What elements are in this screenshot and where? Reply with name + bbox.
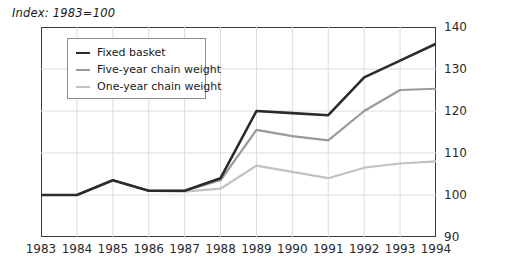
legend-line-swatch [76, 69, 90, 71]
legend-item: Five-year chain weight [68, 61, 205, 78]
legend-item-label: One-year chain weight [97, 80, 222, 93]
chart-figure: Index: 1983=100 90100110120130140 198319… [0, 0, 517, 269]
y-tick-label: 120 [444, 105, 484, 117]
legend-item: Fixed basket [68, 44, 205, 61]
legend-item: One-year chain weight [68, 78, 205, 95]
legend-line-swatch [76, 52, 90, 54]
y-tick-label: 110 [444, 147, 484, 159]
y-tick-label: 140 [444, 21, 484, 33]
legend-item-label: Five-year chain weight [97, 63, 221, 76]
chart-legend: Fixed basketFive-year chain weightOne-ye… [67, 38, 206, 99]
series-line-one-year-chain-weight [41, 161, 436, 195]
y-tick-label: 130 [444, 63, 484, 75]
legend-line-swatch [76, 86, 90, 88]
legend-item-label: Fixed basket [97, 46, 166, 59]
y-tick-label: 100 [444, 189, 484, 201]
chart-title: Index: 1983=100 [12, 6, 115, 20]
x-tick-label: 1994 [414, 243, 458, 255]
